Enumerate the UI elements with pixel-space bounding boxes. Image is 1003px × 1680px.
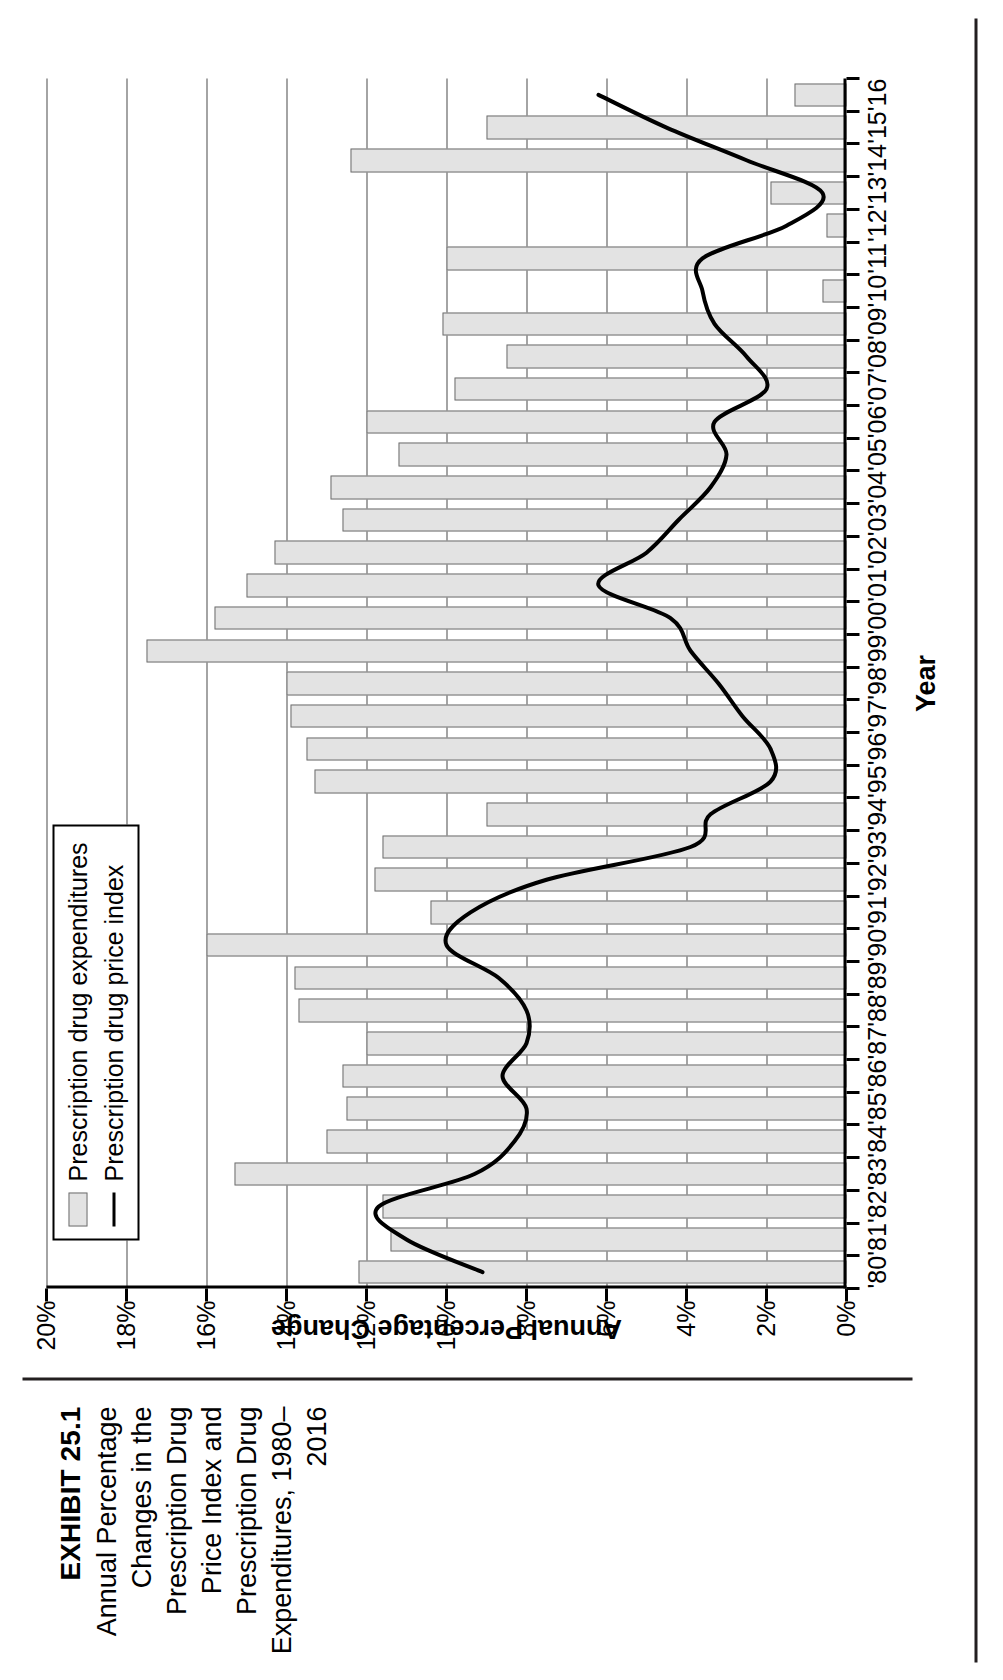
x-axis-line [843,78,846,1288]
legend-label-expenditures: Prescription drug expenditures [63,842,92,1181]
x-tick-label: '89 [862,961,891,994]
x-tick-mark [846,1188,859,1191]
x-tick-label: '92 [862,863,891,896]
x-tick-mark [846,77,859,80]
line-swatch-icon [112,1192,115,1226]
x-tick-mark [846,502,859,505]
x-tick-label: '88 [862,994,891,1027]
x-tick-mark [846,894,859,897]
y-tick-mark [685,1288,688,1301]
x-tick-label: '09 [862,307,891,340]
chart-plot-area: 0%2%4%6%8%10%12%14%16%18%20% '80'81'82'8… [46,78,846,1288]
y-tick-mark [605,1288,608,1301]
y-tick-mark [285,1288,288,1301]
x-axis-title: Year [910,78,941,1288]
plot-inner: 0%2%4%6%8%10%12%14%16%18%20% '80'81'82'8… [46,78,846,1288]
x-tick-label: '02 [862,536,891,569]
y-axis-title: Annual Percentage Change [236,1313,656,1344]
x-tick-label: '91 [862,896,891,929]
x-tick-label: '98 [862,667,891,700]
x-tick-mark [846,404,859,407]
x-tick-mark [846,175,859,178]
x-tick-mark [846,436,859,439]
x-tick-label: '15 [862,111,891,144]
x-tick-label: '99 [862,634,891,667]
x-tick-label: '97 [862,699,891,732]
x-tick-mark [846,1254,859,1257]
x-tick-label: '11 [862,243,891,274]
y-tick-label: 18% [112,1300,141,1350]
x-tick-mark [846,600,859,603]
x-tick-mark [846,273,859,276]
x-tick-label: '04 [862,471,891,504]
x-tick-label: '95 [862,765,891,798]
x-tick-mark [846,469,859,472]
y-tick-mark [45,1288,48,1301]
figure-bottom-rule [974,18,977,1662]
legend-item-expenditures: Prescription drug expenditures [63,842,92,1226]
x-tick-label: '08 [862,340,891,373]
x-tick-label: '82 [862,1190,891,1223]
x-tick-mark [846,763,859,766]
x-tick-mark [846,1221,859,1224]
x-tick-mark [846,305,859,308]
x-tick-mark [846,142,859,145]
y-tick-label: 2% [752,1300,781,1336]
legend-label-price-index: Prescription drug price index [99,864,128,1181]
caption-divider-rule [22,1377,912,1380]
price-index-line [375,94,823,1271]
x-tick-mark [846,1058,859,1061]
bar-swatch-icon [68,1192,87,1226]
x-tick-label: '84 [862,1125,891,1158]
x-tick-mark [846,1287,859,1290]
x-tick-label: '13 [862,176,891,209]
x-tick-label: '07 [862,372,891,405]
x-tick-mark [846,207,859,210]
y-tick-label: 16% [192,1300,221,1350]
x-tick-mark [846,109,859,112]
x-tick-mark [846,992,859,995]
x-tick-mark [846,1090,859,1093]
y-tick-mark [365,1288,368,1301]
x-tick-mark [846,731,859,734]
x-tick-label: '96 [862,732,891,765]
y-tick-mark [525,1288,528,1301]
y-tick-mark [445,1288,448,1301]
y-tick-mark [205,1288,208,1301]
x-tick-label: '81 [862,1223,891,1256]
x-tick-label: '10 [862,274,891,307]
x-tick-mark [846,338,859,341]
x-tick-mark [846,371,859,374]
x-tick-label: '86 [862,1059,891,1092]
x-tick-label: '94 [862,798,891,831]
line-series [46,78,846,1288]
x-tick-mark [846,1025,859,1028]
legend-item-price-index: Prescription drug price index [99,842,128,1226]
x-tick-mark [846,698,859,701]
y-tick-mark [125,1288,128,1301]
x-tick-mark [846,567,859,570]
exhibit-number: EXHIBIT 25.1 [52,1406,88,1662]
x-tick-label: '06 [862,405,891,438]
exhibit-page: EXHIBIT 25.1 Annual Percentage Changes i… [0,0,1003,1680]
chart-legend: Prescription drug expenditures Prescript… [52,824,139,1240]
x-tick-label: '85 [862,1092,891,1125]
x-tick-mark [846,829,859,832]
y-tick-label: 0% [832,1300,861,1336]
x-tick-label: '05 [862,438,891,471]
rotated-figure-wrapper: EXHIBIT 25.1 Annual Percentage Changes i… [0,0,1003,1680]
x-tick-label: '93 [862,830,891,863]
x-tick-mark [846,927,859,930]
x-tick-label: '16 [862,78,891,111]
x-tick-label: '14 [862,143,891,176]
x-tick-label: '83 [862,1157,891,1190]
figure: EXHIBIT 25.1 Annual Percentage Changes i… [0,0,1003,1680]
x-tick-label: '90 [862,928,891,961]
x-tick-mark [846,632,859,635]
x-tick-mark [846,796,859,799]
y-tick-label: 4% [672,1300,701,1336]
x-tick-mark [846,861,859,864]
x-tick-label: '00 [862,601,891,634]
x-tick-mark [846,534,859,537]
x-tick-label: '01 [862,569,891,602]
